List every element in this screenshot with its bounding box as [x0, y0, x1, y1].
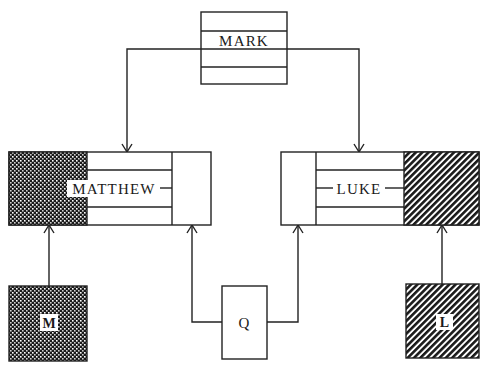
node-luke-label: LUKE [337, 181, 382, 197]
node-q: Q [222, 286, 267, 359]
node-l-label: L [440, 315, 449, 330]
node-mark-label: MARK [219, 33, 269, 49]
node-luke: LUKE [281, 152, 479, 225]
synoptic-diagram: MARK MATTHEW LUKE M Q L [0, 0, 487, 370]
node-q-label: Q [238, 315, 250, 331]
luke-l-source-shading [404, 152, 479, 225]
node-mark: MARK [201, 12, 287, 84]
node-m: M [9, 286, 87, 361]
edge-q-to-matthew [192, 226, 222, 322]
edge-q-to-luke [267, 226, 298, 322]
node-l: L [406, 284, 479, 358]
node-matthew-label: MATTHEW [72, 181, 155, 197]
edge-mark-to-matthew [127, 49, 201, 151]
node-matthew: MATTHEW [9, 152, 211, 225]
edge-mark-to-luke [287, 49, 359, 151]
node-m-label: M [42, 316, 55, 331]
